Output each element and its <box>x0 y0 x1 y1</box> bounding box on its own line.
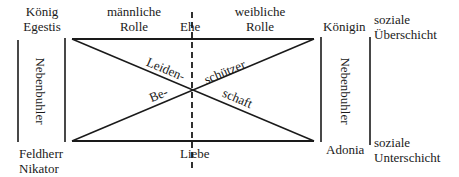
corner-bottom-left: Feldherr Nikator <box>19 146 63 176</box>
adonia-label: Adonia <box>326 142 364 157</box>
right-rival-label: Nebenbuhler <box>337 55 353 127</box>
male-role-label: männliche Rolle <box>98 4 170 34</box>
king-label: König <box>16 4 68 19</box>
left-rival-label: Nebenbuhler <box>32 55 48 127</box>
queen-label: Königin <box>323 19 366 34</box>
love-label: Liebe <box>180 146 210 161</box>
female-role-label: weibliche Rolle <box>224 4 296 34</box>
upper-class-label: soziale Überschicht <box>374 12 437 42</box>
marriage-label: Ehe <box>180 19 200 34</box>
egestis-label: Egestis <box>16 19 68 34</box>
character-constellation-diagram: König Egestis männliche Rolle Ehe weibli… <box>0 0 459 177</box>
lower-class-label: soziale Unterschicht <box>374 135 440 165</box>
nikator-label: Nikator <box>19 161 63 176</box>
corner-top-left: König Egestis <box>16 4 68 34</box>
feldherr-label: Feldherr <box>19 146 63 161</box>
